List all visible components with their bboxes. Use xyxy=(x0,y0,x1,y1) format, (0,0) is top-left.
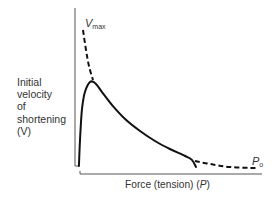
po-sub: o xyxy=(259,161,263,168)
y-label-line: of xyxy=(17,100,66,112)
y-label-line: Initial xyxy=(17,76,66,88)
y-axis xyxy=(75,8,78,166)
y-axis-label: Initial velocity of shortening (V) xyxy=(17,76,66,137)
vmax-extrapolation-dashed xyxy=(83,30,93,80)
x-label-variable: P xyxy=(200,179,207,190)
vmax-annotation: Vmax xyxy=(85,17,106,30)
x-label-text: Force (tension) ( xyxy=(125,179,200,190)
x-axis xyxy=(80,171,262,174)
y-label-line: shortening xyxy=(17,113,66,125)
y-label-line: (V) xyxy=(17,125,66,137)
y-label-line: velocity xyxy=(17,88,66,100)
po-extrapolation-dashed xyxy=(195,161,256,168)
x-label-suffix: ) xyxy=(207,179,210,190)
x-axis-label: Force (tension) (P) xyxy=(125,179,210,190)
measured-curve xyxy=(79,81,196,167)
po-annotation: Po xyxy=(252,155,263,168)
vmax-sub: max xyxy=(92,23,105,30)
